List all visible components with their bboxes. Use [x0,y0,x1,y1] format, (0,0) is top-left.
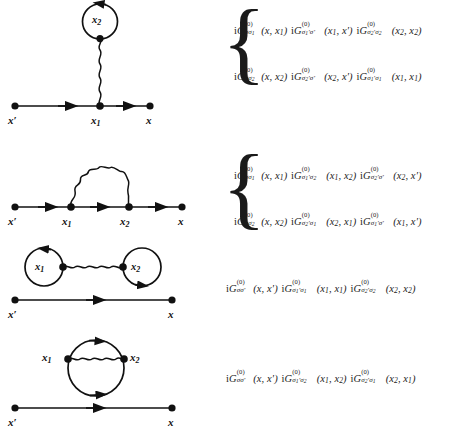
horizontal-wavy-line [63,266,123,268]
diagram-3-loop2-label: x2 [131,261,140,274]
diagram-2-label-x: x [178,215,184,227]
equations-panel: { { iG(0)σσ1(x, x1) iG(0)σ1′σ′(x1, x′) i… [222,0,450,422]
diagram-1-loop-label: x2 [92,14,101,27]
closed-bubble-loop [68,340,124,396]
diagram-1-label-x: x [146,114,152,126]
equation-2a: iG(0)σσ1(x, x1) iG(0)σ1′σ2(x1, x2) iG(0)… [234,170,422,182]
closed-fermion-loop-x2 [123,248,161,286]
wavy-arc-interaction-line [71,167,129,207]
vertex-dot-x2 [120,355,128,363]
vertex-dot-x1 [59,263,67,271]
diagram-3-loop1-label: x1 [35,261,44,274]
endpoint-dot-right [146,102,153,109]
diagram-1-tadpole [11,3,153,109]
diagram-3-label-x-prime: x′ [8,308,17,320]
endpoint-dot-right [178,203,185,210]
diagrams-panel [0,0,225,422]
endpoint-dot-left [11,296,18,303]
diagram-4-label-x: x [168,416,174,428]
diagram-3-double-tadpole [11,248,175,304]
equation-3: iG(0)σσ′(x, x′) iG(0)σ1′σ1(x1, x1) iG(0)… [226,283,416,295]
equation-1a: iG(0)σσ1(x, x1) iG(0)σ1′σ′(x1, x′) iG(0)… [234,25,422,37]
wavy-interaction-line [68,358,124,360]
diagram-1-label-x-prime: x′ [8,114,17,126]
vertex-dot-x1 [64,355,72,363]
vertex-dot-x2 [119,263,127,271]
endpoint-dot-right [168,296,175,303]
diagram-2-label-x-prime: x′ [8,215,17,227]
diagram-3-label-x: x [168,308,174,320]
endpoint-dot-left [11,203,18,210]
equation-4: iG(0)σσ′(x, x′) iG(0)σ1′σ2(x1, x2) iG(0)… [226,373,416,385]
diagram-4-bubble [11,340,175,412]
diagram-2-label-x1: x1 [62,215,72,229]
diagram-4-label-x1: x1 [42,351,52,365]
equation-1b: iG(0)σσ2(x, x2) iG(0)σ2′σ′(x2, x′) iG(0)… [234,71,422,83]
diagram-2-self-energy [11,167,185,211]
endpoint-dot-right [168,404,175,411]
endpoint-dot-left [11,404,18,411]
diagram-4-label-x-prime: x′ [8,416,17,428]
diagram-1-label-x1: x1 [91,114,101,128]
diagram-2-label-x2: x2 [120,215,130,229]
wavy-interaction-line [99,39,101,107]
equation-2b: iG(0)σσ2(x, x2) iG(0)σ2′σ1(x2, x1) iG(0)… [234,216,422,228]
endpoint-dot-left [11,102,18,109]
vertex-dot-x2 [96,35,103,42]
diagram-4-label-x2: x2 [130,351,140,365]
